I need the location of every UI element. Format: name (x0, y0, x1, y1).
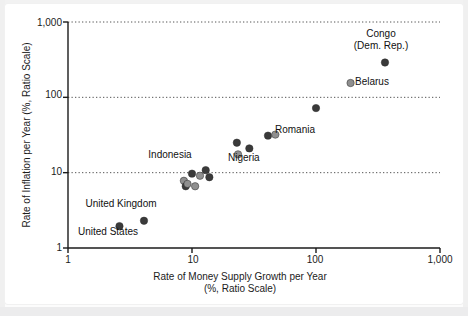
data-point-point-d (191, 183, 198, 190)
x-axis-title-line2: (%, Ratio Scale) (110, 283, 370, 295)
point-label-congo-line2: (Dem. Rep.) (336, 40, 426, 51)
data-point-belarus (347, 79, 354, 86)
y-tick-label-1000: 1,000 (8, 17, 62, 28)
x-tick-label-1: 1 (50, 254, 86, 265)
data-point-indonesia (188, 170, 195, 177)
axes-lines-group (68, 22, 440, 248)
x-tick-label-1000: 1,000 (420, 254, 460, 265)
y-tick-label-1: 1 (8, 242, 62, 253)
point-label-belarus: Belarus (355, 76, 425, 87)
point-label-united-kingdom: United Kingdom (66, 198, 176, 209)
y-tick-label-100: 100 (8, 89, 62, 100)
data-point-point-h (233, 139, 240, 146)
data-point-point-i (246, 145, 253, 152)
point-label-romania: Romania (275, 124, 345, 135)
data-point-point-g (206, 174, 213, 181)
data-point-point-k (312, 104, 319, 111)
point-label-indonesia: Indonesia (130, 149, 210, 160)
data-point-point-c (184, 180, 191, 187)
data-point-point-j (264, 132, 271, 139)
data-point-congo-dem-rep (381, 59, 388, 66)
x-axis-title-line1: Rate of Money Supply Growth per Year (110, 271, 370, 283)
point-label-nigeria: Nigeria (228, 152, 288, 163)
data-point-point-f (202, 166, 209, 173)
y-axis-title: Rate of Inflation per Year (%, Ratio Sca… (21, 20, 33, 250)
x-tick-label-10: 10 (175, 254, 211, 265)
x-tick-label-100: 100 (297, 254, 333, 265)
y-tick-label-10: 10 (8, 166, 62, 177)
data-point-point-e (196, 172, 203, 179)
figure-container: 1,000 100 10 1 1 10 100 1,000 Rate of In… (0, 0, 468, 316)
tick-marks-group (63, 22, 440, 253)
data-point-united-kingdom (140, 217, 147, 224)
point-label-congo-line1: Congo (336, 28, 426, 39)
point-label-united-states: United States (56, 226, 160, 237)
